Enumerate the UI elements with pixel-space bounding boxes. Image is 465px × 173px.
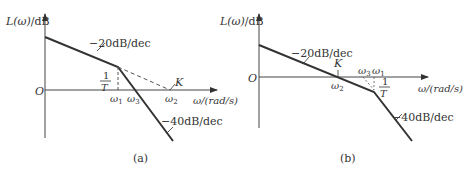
frac-den: T	[101, 82, 109, 93]
frac-num: 1	[103, 70, 109, 81]
K-label: K	[174, 76, 184, 89]
caption-a: (a)	[133, 152, 148, 165]
panel-a: L(ω)/dB O ω/(rad/s) −20dB/dec −40dB/dec …	[5, 14, 238, 165]
x-axis-label: ω/(rad/s)	[418, 83, 463, 94]
magnitude-asymptote	[45, 37, 173, 141]
y-axis-label: L(ω)/dB	[219, 15, 264, 28]
frac-num: 1	[382, 76, 388, 87]
slope2-label: −40dB/dec	[161, 115, 223, 128]
x-axis-label: ω/(rad/s)	[193, 95, 238, 106]
panel-b: L(ω)/dB O ω/(rad/s) −20dB/dec −40dB/dec …	[219, 14, 463, 165]
origin-label: O	[248, 72, 257, 85]
slope1-label: −20dB/dec	[89, 37, 151, 50]
origin-label: O	[35, 85, 44, 98]
omega1-label: ω1	[110, 93, 123, 106]
slope1-label: −20dB/dec	[291, 47, 353, 60]
caption-b: (b)	[340, 152, 356, 165]
omega2-label: ω2	[331, 80, 344, 93]
frac-den: T	[380, 88, 388, 99]
K-label: K	[333, 57, 343, 70]
y-axis-label: L(ω)/dB	[5, 15, 50, 28]
bode-diagrams: L(ω)/dB O ω/(rad/s) −20dB/dec −40dB/dec …	[0, 0, 465, 173]
slope2-label: −40dB/dec	[392, 111, 454, 124]
omega3-label: ω3	[358, 65, 371, 78]
omega2-label: ω2	[165, 93, 178, 106]
